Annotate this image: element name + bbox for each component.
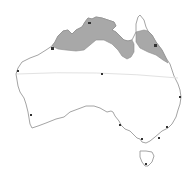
marker-carnarvon xyxy=(17,70,19,72)
distribution-map xyxy=(0,0,190,171)
marker-perth xyxy=(30,114,32,116)
marker-alice-springs xyxy=(101,73,103,75)
marker-broome xyxy=(51,47,54,50)
australia-map xyxy=(0,0,190,171)
marker-cairns xyxy=(154,44,157,47)
marker-darwin xyxy=(88,22,91,24)
marker-sydney xyxy=(166,126,168,128)
marker-hobart xyxy=(145,163,147,165)
marker-melbourne xyxy=(141,138,143,140)
marker-adelaide xyxy=(119,124,121,126)
marker-brisbane xyxy=(179,96,181,98)
marker-canberra xyxy=(158,137,160,139)
